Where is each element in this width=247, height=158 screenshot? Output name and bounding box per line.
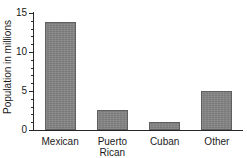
y-tick-label: 0	[0, 125, 27, 135]
y-tick-label: 10	[0, 47, 27, 57]
x-axis-label: Puerto Rican	[86, 136, 138, 158]
y-tick-label: 5	[0, 86, 27, 96]
y-tick-label: 15	[0, 8, 27, 18]
bar	[201, 91, 232, 130]
x-axis-line	[33, 130, 243, 131]
bar	[149, 122, 180, 130]
x-axis-label: Mexican	[34, 136, 86, 147]
bar	[97, 110, 128, 130]
x-axis-label: Cuban	[139, 136, 191, 147]
bar-chart: Population in millions 051015 MexicanPue…	[0, 0, 247, 158]
plot-area	[34, 13, 243, 130]
y-axis-tick-labels: 051015	[0, 0, 27, 158]
bar	[45, 22, 76, 130]
x-axis-label: Other	[191, 136, 243, 147]
y-tick-major	[29, 130, 34, 131]
